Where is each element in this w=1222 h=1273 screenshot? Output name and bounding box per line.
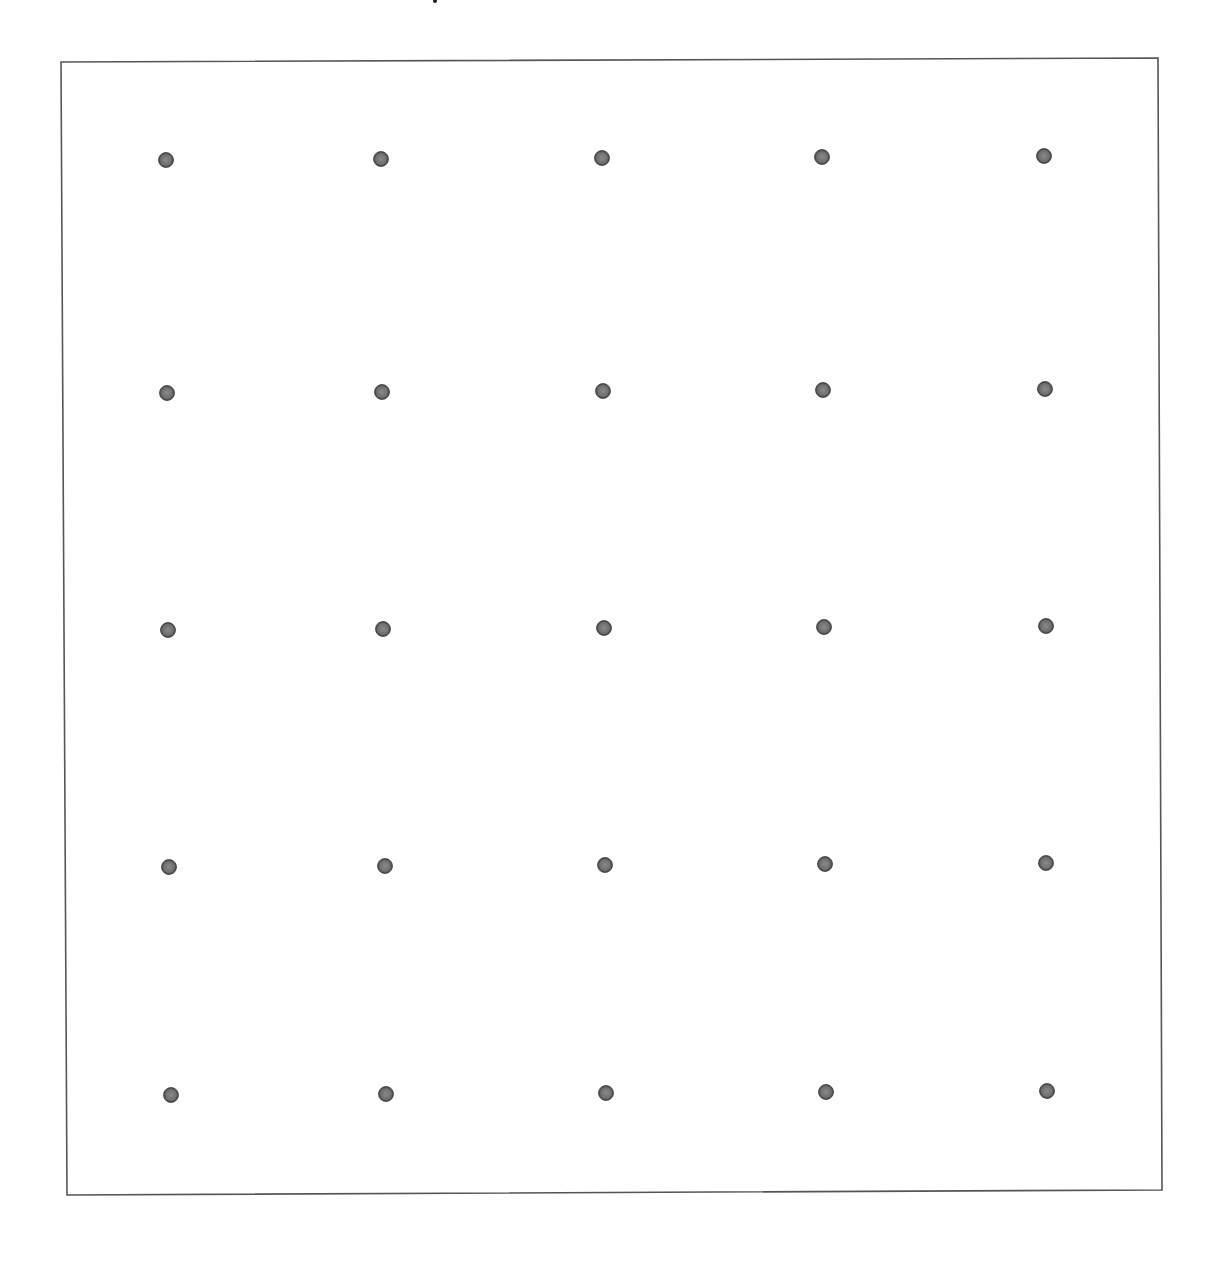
grid-dot-r4-c1 (162, 860, 177, 875)
grid-dot-r4-c5 (1039, 856, 1054, 871)
grid-dot-r3-c3 (597, 621, 612, 636)
grid-dot-r1-c5 (1037, 149, 1052, 164)
grid-dot-r2-c5 (1038, 382, 1053, 397)
grid-dot-r5-c4 (819, 1085, 834, 1100)
grid-dot-r1-c1 (159, 153, 174, 168)
grid-dot-r2-c1 (160, 386, 175, 401)
grid-dot-r5-c3 (599, 1086, 614, 1101)
dot-grid (159, 149, 1055, 1103)
grid-dot-r1-c2 (374, 152, 389, 167)
grid-dot-r5-c2 (379, 1087, 394, 1102)
grid-dot-r3-c2 (376, 622, 391, 637)
grid-dot-r4-c2 (378, 859, 393, 874)
grid-dot-r4-c4 (818, 857, 833, 872)
grid-dot-r1-c3 (595, 151, 610, 166)
grid-dot-r5-c5 (1040, 1084, 1055, 1099)
grid-dot-r2-c2 (375, 385, 390, 400)
grid-dot-r2-c4 (816, 383, 831, 398)
grid-dot-r3-c1 (161, 623, 176, 638)
grid-dot-r1-c4 (815, 150, 830, 165)
grid-dot-r2-c3 (596, 384, 611, 399)
dot-grid-diagram (0, 0, 1222, 1273)
grid-dot-r3-c5 (1039, 619, 1054, 634)
grid-dot-r3-c4 (817, 620, 832, 635)
grid-dot-r4-c3 (598, 858, 613, 873)
grid-dot-r5-c1 (164, 1088, 179, 1103)
